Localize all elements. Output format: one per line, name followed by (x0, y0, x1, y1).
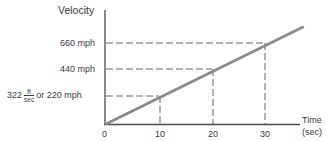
y-axis-label: Velocity (58, 4, 94, 16)
ft-per-sec-fraction: ftsec (24, 88, 34, 103)
y-tick-440: 440 mph (60, 64, 95, 74)
x-tick-30: 30 (260, 129, 270, 139)
y-tick-220-suffix: or 220 mph (36, 90, 82, 100)
x-tick-0: 0 (102, 129, 107, 139)
fraction-numerator: ft (24, 88, 34, 96)
x-tick-10: 10 (155, 129, 165, 139)
y-tick-660: 660 mph (60, 38, 95, 48)
x-axis-label-line1: Time (302, 115, 322, 125)
x-tick-20: 20 (208, 129, 218, 139)
velocity-time-chart (0, 0, 328, 141)
velocity-line (106, 27, 303, 124)
y-tick-220-prefix: 322 (7, 90, 22, 100)
fraction-denominator: sec (24, 96, 34, 103)
y-tick-220: 322ftsecor 220 mph (7, 88, 82, 103)
x-axis-label-line2: (sec) (302, 127, 322, 137)
